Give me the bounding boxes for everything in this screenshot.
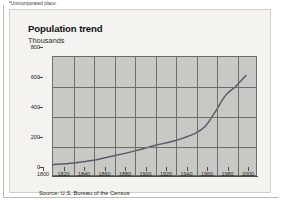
y-axis-tick-mark [39,47,43,48]
x-axis-tick-mark [125,167,126,171]
x-axis-tick-mark [105,167,106,171]
y-axis-tick-label: 800 [18,44,40,50]
x-axis-tick-mark [187,167,188,171]
x-axis-tick-mark [43,167,44,171]
gridline-vertical [74,57,75,175]
y-axis-tick-label: 0 [18,164,40,170]
x-axis-baseline [52,176,258,177]
y-axis-tick-label: 200 [18,134,40,140]
source-note: Source: U.S. Bureau of the Census [39,190,130,196]
x-axis-tick-mark [64,167,65,171]
plot-area [52,56,257,176]
y-axis-tick-mark [39,77,43,78]
gridline-vertical [176,57,177,175]
plot-grid [53,57,256,175]
gridline-horizontal [53,117,256,118]
gridline-vertical [238,57,239,175]
chart-title: Population trend [28,23,103,34]
y-axis-tick-mark [39,137,43,138]
x-axis-tick-mark [228,167,229,171]
screenshot-root: *Unincorporated place. Population trend … [0,0,283,204]
y-axis-tick-label: 600 [18,74,40,80]
gridline-horizontal [53,87,256,88]
gridline-vertical [217,57,218,175]
x-axis-tick-mark [84,167,85,171]
gridline-vertical [156,57,157,175]
gridline-vertical [94,57,95,175]
x-axis-tick-mark [248,167,249,171]
gridline-horizontal [53,147,256,148]
x-axis-tick-mark [146,167,147,171]
x-axis-tick-mark [166,167,167,171]
gridline-vertical [115,57,116,175]
y-axis-tick-mark [39,107,43,108]
y-axis-tick-label: 400 [18,104,40,110]
footnote-text: *Unincorporated place. [9,1,57,6]
x-axis-tick-mark [207,167,208,171]
gridline-vertical [135,57,136,175]
chart-panel: Population trend Thousands 0200400600800… [9,9,271,193]
gridline-vertical [197,57,198,175]
population-line-series [53,57,256,175]
